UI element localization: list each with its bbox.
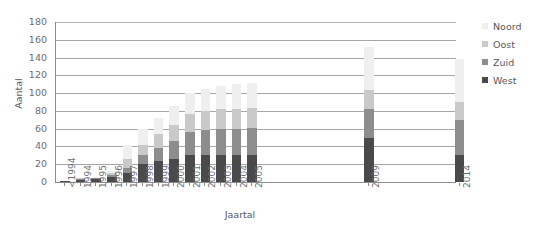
y-tick-label: 60: [19, 124, 47, 134]
x-tick-mark: [220, 183, 221, 186]
bar-segment-oost: [247, 108, 257, 128]
legend-swatch-icon: [482, 41, 488, 47]
bar-segment-zuid: [169, 141, 179, 159]
x-tick-mark: [368, 183, 369, 186]
legend-label: Oost: [493, 39, 515, 50]
bar-segment-oost: [169, 125, 179, 141]
x-tick-label: 1995: [99, 165, 108, 188]
x-tick-mark: [95, 183, 96, 186]
x-tick-label: 2000: [177, 165, 186, 188]
legend-swatch-icon: [482, 59, 488, 65]
bar-segment-oost: [154, 134, 164, 148]
bar-segment-noord: [216, 86, 226, 109]
bar-segment-oost: [364, 90, 374, 110]
bar-segment-oost: [201, 111, 211, 131]
legend-item-west[interactable]: West: [482, 71, 544, 89]
bar-segment-noord: [169, 106, 179, 126]
bar-segment-noord: [154, 118, 164, 134]
legend-item-noord[interactable]: Noord: [482, 17, 544, 35]
legend-swatch-icon: [482, 23, 488, 29]
y-tick-label: 120: [19, 70, 47, 80]
x-tick-mark: [173, 183, 174, 186]
y-tick-label: 140: [19, 53, 47, 63]
gridline: [56, 22, 456, 23]
bar-segment-zuid: [364, 109, 374, 137]
legend-item-oost[interactable]: Oost: [482, 35, 544, 53]
bar-segment-noord: [232, 84, 242, 109]
y-axis-ticks: 180160140120100806040200: [19, 22, 47, 182]
bar-segment-noord: [138, 129, 148, 145]
bar-segment-zuid: [201, 130, 211, 155]
y-tick-label: 80: [19, 106, 47, 116]
y-tick-label: 0: [19, 177, 47, 187]
x-tick-mark: [236, 183, 237, 186]
x-tick-mark: [111, 183, 112, 186]
bar-segment-zuid: [138, 155, 148, 164]
x-tick-label: 2005: [255, 165, 264, 188]
x-tick-label: 1998: [146, 165, 155, 188]
bar-segment-noord: [247, 83, 257, 108]
x-tick-label: 2001: [193, 165, 202, 188]
bar-segment-noord: [455, 59, 465, 102]
bar-segment-noord: [123, 145, 133, 159]
chart-legend: NoordOostZuidWest: [482, 17, 544, 89]
plot-area: [55, 22, 456, 183]
bar-segment-oost: [232, 109, 242, 129]
gridline: [56, 75, 456, 76]
x-tick-mark: [80, 183, 81, 186]
x-tick-label: 2009: [372, 165, 381, 188]
x-tick-mark: [251, 183, 252, 186]
x-tick-mark: [189, 183, 190, 186]
y-tick-label: 40: [19, 141, 47, 151]
x-tick-mark: [142, 183, 143, 186]
x-tick-mark: [204, 183, 205, 186]
legend-label: Noord: [493, 21, 522, 32]
x-tick-label: 1996: [115, 165, 124, 188]
legend-label: West: [493, 75, 516, 86]
x-tick-label: <1994: [68, 158, 77, 188]
bar-segment-zuid: [185, 132, 195, 155]
bar-segment-oost: [216, 109, 226, 129]
x-tick-label: 1997: [130, 165, 139, 188]
legend-swatch-icon: [482, 77, 488, 83]
chart-figure: Aantal 180160140120100806040200 Jaartal …: [0, 0, 544, 229]
x-tick-label: 1999: [162, 165, 171, 188]
y-tick-label: 20: [19, 159, 47, 169]
y-tick-label: 180: [19, 17, 47, 27]
bar-2009: [364, 47, 374, 182]
gridline: [56, 58, 456, 59]
bar-segment-zuid: [216, 129, 226, 156]
y-tick-label: 100: [19, 88, 47, 98]
x-tick-mark: [459, 183, 460, 186]
bar-segment-zuid: [154, 148, 164, 160]
bar-segment-zuid: [455, 120, 465, 156]
bar-segment-zuid: [232, 129, 242, 156]
bar-segment-oost: [185, 114, 195, 132]
legend-label: Zuid: [493, 57, 514, 68]
x-tick-label: 2003: [224, 165, 233, 188]
x-tick-label: 1994: [84, 165, 93, 188]
x-axis-title: Jaartal: [180, 209, 300, 220]
bar-segment-oost: [138, 145, 148, 156]
x-tick-label: 2004: [240, 165, 249, 188]
x-tick-mark: [158, 183, 159, 186]
bar-segment-oost: [455, 102, 465, 120]
bar-segment-zuid: [247, 128, 257, 156]
bar-segment-noord: [185, 93, 195, 114]
x-tick-mark: [64, 183, 65, 186]
gridline: [56, 40, 456, 41]
bar-segment-noord: [201, 89, 211, 111]
x-tick-label: 2014: [463, 165, 472, 188]
x-tick-label: 2002: [208, 165, 217, 188]
x-tick-mark: [126, 183, 127, 186]
legend-item-zuid[interactable]: Zuid: [482, 53, 544, 71]
bar-segment-noord: [364, 47, 374, 90]
y-tick-label: 160: [19, 35, 47, 45]
bar-2014: [455, 59, 465, 182]
